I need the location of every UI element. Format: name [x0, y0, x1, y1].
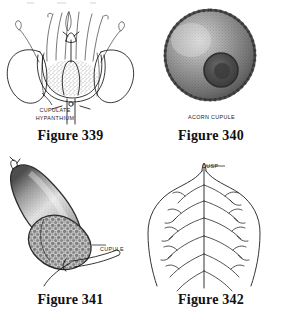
stamen-filaments [20, 12, 120, 62]
acorn-cupule-body [165, 10, 255, 100]
figure-caption-339: Figure 339 [0, 128, 141, 144]
figure-340-illustration [141, 0, 281, 128]
annotation-cupule: CUPULE [100, 245, 124, 253]
cupule-scaly [28, 215, 91, 270]
figure-panel-341: CUPULE Figure 341 [0, 155, 141, 319]
anthers [16, 12, 125, 31]
leaf-secondary-veins [161, 185, 249, 291]
cupule-central-scar [204, 53, 238, 87]
figure-panel-339: CUPULATE HYPANTHIUM Figure 339 [0, 0, 141, 155]
figure-plate: CUPULATE HYPANTHIUM Figure 339 [0, 0, 281, 319]
annotation-cusp: CUSP [202, 162, 218, 170]
annotation-line-1: CUPULATE [19, 106, 91, 114]
highlight [171, 23, 211, 57]
annotation-cupulate-hypanthium: CUPULATE HYPANTHIUM [19, 106, 91, 122]
annotation-line-1: CUPULE [100, 246, 124, 252]
figure-342-illustration [141, 155, 281, 292]
annotation-line-1: ACORN CUPULE [188, 114, 235, 120]
figure-caption-342: Figure 342 [141, 292, 281, 308]
annotation-line-2: HYPANTHIUM [19, 114, 91, 122]
hypanthium-stipple [44, 60, 98, 96]
figure-panel-340: ACORN CUPULE Figure 340 [141, 0, 281, 155]
figure-caption-341: Figure 341 [0, 292, 141, 308]
figure-341-illustration [0, 155, 141, 292]
figure-caption-340: Figure 340 [141, 128, 281, 144]
figure-panel-342: CUSP Figure 342 [141, 155, 281, 319]
annotation-line-1: CUSP [202, 163, 218, 169]
annotation-acorn-cupule: ACORN CUPULE [141, 113, 281, 121]
